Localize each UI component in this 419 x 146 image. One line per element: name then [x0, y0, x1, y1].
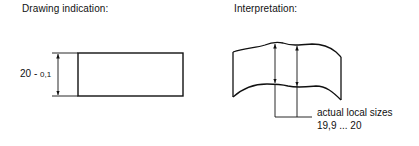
- local-size-arrows: [275, 44, 297, 86]
- extension-lines: [52, 53, 78, 96]
- nominal-rectangle: [78, 53, 183, 96]
- wavy-actual-shape: [233, 42, 341, 100]
- annotation-size-range: 19,9 ... 20: [317, 120, 361, 131]
- nominal-size: 20: [20, 68, 31, 79]
- annotation-actual-local-sizes: actual local sizes: [317, 107, 393, 118]
- leader-lines: [275, 84, 312, 117]
- tolerance-separator: -: [31, 68, 40, 79]
- tolerance-value: 0,1: [40, 70, 51, 79]
- dimension-label: 20 - 0,1: [20, 68, 51, 79]
